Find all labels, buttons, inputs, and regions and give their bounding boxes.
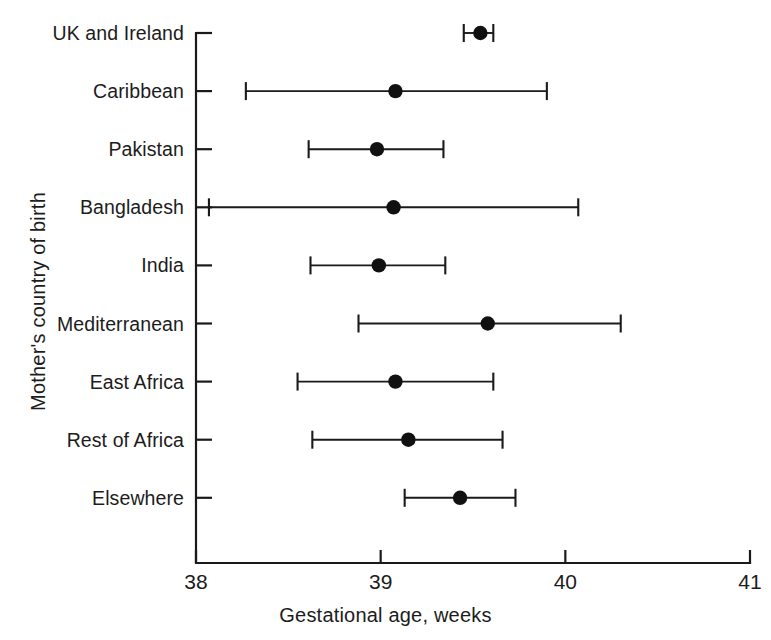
category-label: Bangladesh <box>80 196 184 219</box>
data-point-row <box>309 140 444 158</box>
category-label: Rest of Africa <box>67 428 184 451</box>
data-point-row <box>310 256 445 274</box>
x-axis-tick-label: 41 <box>738 570 761 594</box>
mean-marker-dot <box>388 84 402 98</box>
y-axis-title: Mother's country of birth <box>27 32 50 572</box>
mean-marker-dot <box>372 258 386 272</box>
category-label: Elsewhere <box>92 486 184 509</box>
axis-spine <box>196 33 750 563</box>
data-point-row <box>405 489 516 507</box>
data-point-row <box>209 198 578 216</box>
category-label: Pakistan <box>108 138 184 161</box>
mean-marker-dot <box>473 26 487 40</box>
category-label: Mediterranean <box>57 312 184 335</box>
data-point-row <box>359 315 621 333</box>
category-label: UK and Ireland <box>53 22 184 45</box>
data-point-row <box>312 431 502 449</box>
mean-marker-dot <box>370 142 384 156</box>
x-axis-tick-label: 38 <box>184 570 207 594</box>
data-point-row <box>298 373 494 391</box>
mean-marker-dot <box>386 200 400 214</box>
x-axis-tick-label: 39 <box>369 570 392 594</box>
category-label: East Africa <box>90 370 184 393</box>
x-axis-tick-label: 40 <box>554 570 577 594</box>
gestational-age-forest-plot: UK and IrelandCaribbeanPakistanBanglades… <box>0 0 771 640</box>
mean-marker-dot <box>453 491 467 505</box>
data-point-row <box>246 82 547 100</box>
mean-marker-dot <box>401 433 415 447</box>
mean-marker-dot <box>388 374 402 388</box>
data-point-row <box>464 24 494 42</box>
x-axis-title: Gestational age, weeks <box>0 604 771 627</box>
category-label: Caribbean <box>93 80 184 103</box>
category-label: India <box>141 254 184 277</box>
mean-marker-dot <box>481 316 495 330</box>
